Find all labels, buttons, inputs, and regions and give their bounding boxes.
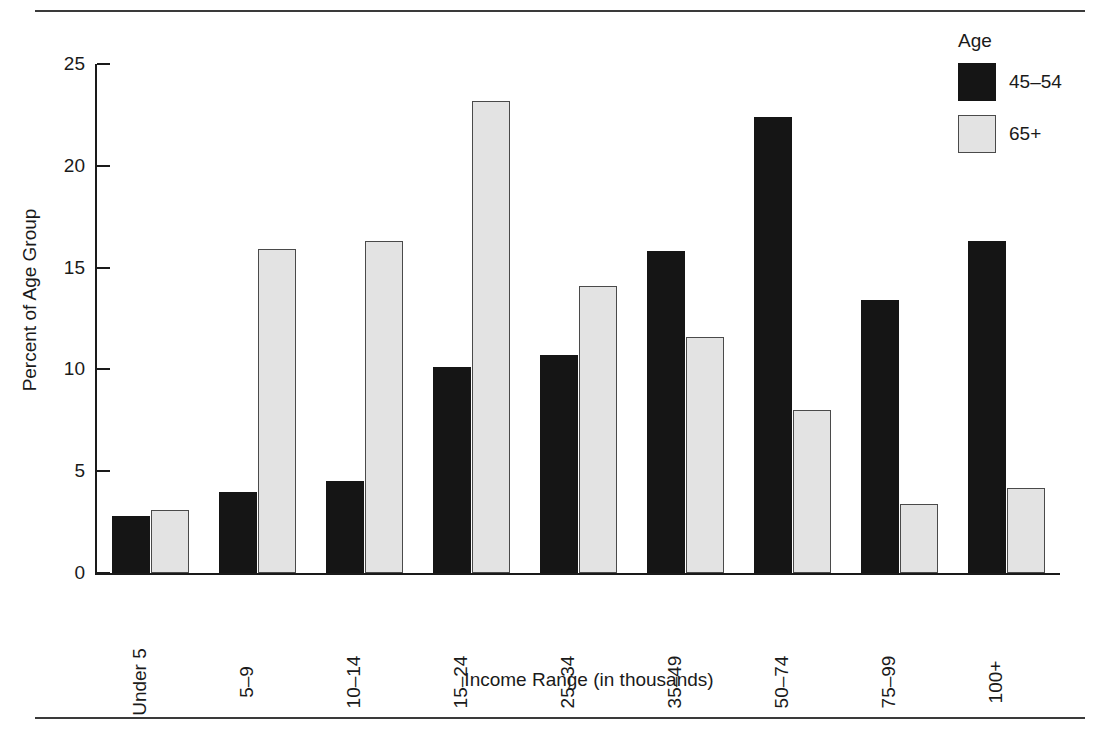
bar [365, 241, 403, 573]
x-tick-label-0: Under 5 [138, 580, 164, 682]
bar [540, 355, 578, 573]
figure-bar-chart: Percent of Age Group 0510152025 Under 55… [0, 0, 1116, 732]
x-axis-line [95, 573, 1060, 575]
y-tick-label-20: 20 [33, 156, 85, 175]
legend-item-label: 65+ [1009, 123, 1041, 145]
bar [112, 516, 150, 573]
y-tick-label-0: 0 [33, 563, 85, 582]
x-tick-label-2: 10–14 [352, 580, 378, 682]
x-tick-label-4: 25–34 [566, 580, 592, 682]
bar [326, 481, 364, 573]
bar [258, 249, 296, 573]
legend-item-65+[interactable]: 65+ [958, 115, 1108, 153]
y-tick-label-15: 15 [33, 258, 85, 277]
x-tick-label-1: 5–9 [245, 580, 271, 682]
x-tick-label-7: 75–99 [887, 580, 913, 682]
legend: Age 45–5465+ [958, 30, 1108, 167]
legend-entries: 45–5465+ [958, 63, 1108, 153]
bar [579, 286, 617, 573]
x-tick-label-3: 15–24 [459, 580, 485, 682]
bar [647, 251, 685, 573]
legend-item-label: 45–54 [1009, 71, 1062, 93]
legend-title: Age [958, 30, 1108, 52]
bar [900, 504, 938, 573]
x-tick-label-5: 35–49 [673, 580, 699, 682]
x-tick-label-8: 100+ [994, 580, 1020, 682]
y-tick-label-10: 10 [33, 359, 85, 378]
bar [686, 337, 724, 573]
bar [1007, 488, 1045, 574]
top-rule [35, 10, 1085, 12]
y-tick-label-5: 5 [33, 461, 85, 480]
y-axis-title: Percent of Age Group [18, 180, 42, 420]
bar [754, 117, 792, 573]
bar [793, 410, 831, 573]
bar [472, 101, 510, 573]
x-axis-title-label: Income Range (in thousands) [464, 669, 713, 690]
bar [861, 300, 899, 573]
y-tick-label-25: 25 [33, 54, 85, 73]
x-tick-label-6: 50–74 [780, 580, 806, 682]
bar [968, 241, 1006, 573]
bar [151, 510, 189, 573]
x-axis-title: Income Range (in thousands) [0, 669, 1116, 691]
legend-item-45–54[interactable]: 45–54 [958, 63, 1108, 101]
bottom-rule [35, 717, 1085, 719]
plot-area: 0510152025 [95, 64, 1060, 575]
legend-swatch-icon [958, 63, 996, 101]
bars-layer [97, 64, 1060, 573]
bar [219, 492, 257, 573]
legend-swatch-icon [958, 115, 996, 153]
bar [433, 367, 471, 573]
